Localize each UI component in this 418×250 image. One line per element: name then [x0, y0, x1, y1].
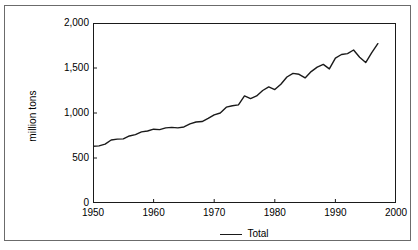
legend-line-swatch	[220, 234, 242, 235]
x-tick-label: 1950	[71, 207, 115, 219]
x-tick-label: 1960	[132, 207, 176, 219]
plot-area	[93, 23, 396, 203]
x-tick-label: 1980	[253, 207, 297, 219]
chart-legend: Total	[93, 227, 396, 241]
legend-item-label: Total	[247, 228, 268, 240]
x-tick-label: 1970	[192, 207, 236, 219]
y-tick-label: 2,000	[47, 18, 89, 28]
line-series-total	[93, 23, 396, 203]
y-tick-label: 1,000	[47, 108, 89, 118]
y-tick-label: 500	[47, 153, 89, 163]
x-tick-label: 1990	[313, 207, 357, 219]
chart-figure: million tons 05001,0001,5002,000 1950196…	[4, 5, 411, 241]
x-tick-label: 2000	[374, 207, 418, 219]
x-axis-tick-labels: 195019601970198019902000	[93, 207, 396, 221]
y-tick-label: 1,500	[47, 63, 89, 73]
series-polyline	[93, 44, 378, 147]
y-axis-label: million tons	[27, 66, 43, 166]
y-axis-tick-labels: 05001,0001,5002,000	[45, 23, 89, 203]
